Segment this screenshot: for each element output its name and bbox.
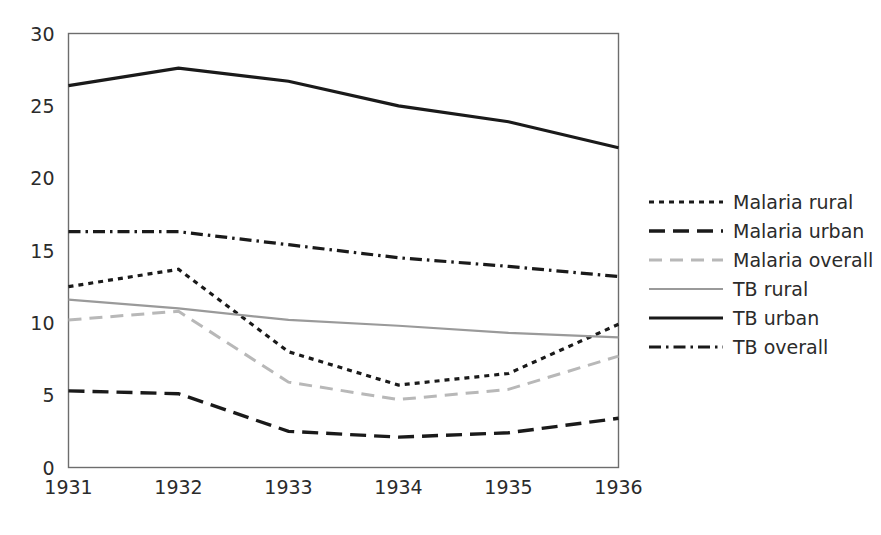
x-tick-label: 1931 xyxy=(44,476,92,498)
x-tick-label: 1932 xyxy=(154,476,202,498)
x-tick-label: 1934 xyxy=(374,476,422,498)
legend-label: Malaria overall xyxy=(733,249,873,271)
y-tick-label: 20 xyxy=(30,167,54,189)
y-tick-label: 30 xyxy=(30,23,54,45)
legend-label: Malaria rural xyxy=(733,191,853,213)
legend-label: TB rural xyxy=(732,278,808,300)
x-tick-label: 1935 xyxy=(484,476,532,498)
y-tick-label: 5 xyxy=(42,384,54,406)
legend-label: TB urban xyxy=(732,307,819,329)
legend-label: TB overall xyxy=(732,336,828,358)
legend-label: Malaria urban xyxy=(733,220,864,242)
x-tick-label: 1936 xyxy=(594,476,642,498)
y-tick-label: 25 xyxy=(30,95,54,117)
chart-figure: 051015202530 193119321933193419351936 Ma… xyxy=(0,0,881,535)
line-chart: 051015202530 193119321933193419351936 Ma… xyxy=(0,0,881,535)
x-tick-label: 1933 xyxy=(264,476,312,498)
y-tick-label: 10 xyxy=(30,312,54,334)
y-tick-label: 15 xyxy=(30,240,54,262)
